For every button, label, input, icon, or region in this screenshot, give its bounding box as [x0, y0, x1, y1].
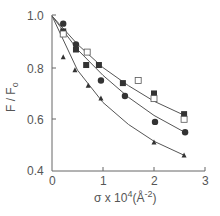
marker-open-square [151, 96, 157, 102]
marker-filled-square [96, 62, 102, 68]
marker-filled-circle [182, 129, 188, 135]
axes [52, 15, 205, 171]
marker-open-square [135, 78, 141, 84]
fit-curve-1 [52, 16, 185, 132]
y-tick-0.4: 0.4 [27, 164, 44, 178]
marker-filled-circle [98, 77, 104, 83]
y-axis-label: F / Fo [4, 82, 20, 112]
fit-curve-2 [52, 16, 185, 156]
fit-curves [52, 16, 185, 156]
x-tick-3: 3 [202, 174, 209, 188]
marker-open-square [84, 49, 90, 55]
y-tick-0.8: 0.8 [27, 62, 44, 76]
chart: 1.0 0.8 0.6 0.4 0 1 2 3 σ x 104(Å-2) F /… [0, 0, 220, 216]
y-tick-0.6: 0.6 [27, 113, 44, 127]
marker-filled-square [120, 80, 126, 86]
fit-curve-0 [52, 16, 185, 116]
marker-open-square [60, 31, 66, 37]
x-tick-2: 2 [151, 174, 158, 188]
marker-filled-circle [122, 93, 128, 99]
x-tick-0: 0 [49, 174, 56, 188]
x-tick-1: 1 [100, 174, 107, 188]
marker-filled-circle [60, 20, 66, 26]
marker-filled-circle [152, 119, 158, 125]
data-markers [60, 20, 188, 157]
marker-open-square [181, 116, 187, 122]
x-axis-label: σ x 104(Å-2) [94, 189, 156, 205]
marker-filled-square [73, 47, 79, 53]
y-tick-1.0: 1.0 [27, 9, 44, 23]
marker-filled-square [83, 62, 89, 68]
marker-filled-triangle [61, 54, 66, 59]
